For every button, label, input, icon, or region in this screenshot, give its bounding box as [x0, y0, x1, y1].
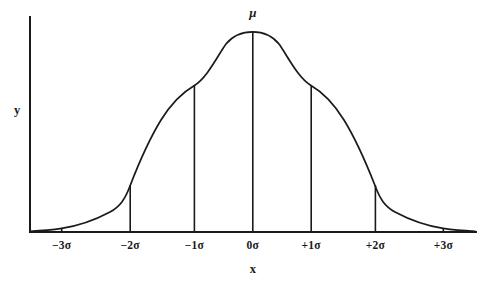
- bell-curve-figure: −3σ −2σ −1σ 0σ +1σ +2σ +3σ x y μ: [0, 0, 484, 295]
- x-tick-label-plus-1-sigma: +1σ: [302, 239, 322, 251]
- x-tick-label-plus-3-sigma: +3σ: [434, 239, 454, 251]
- x-axis-title: x: [250, 262, 257, 276]
- mu-peak-label: μ: [248, 5, 256, 20]
- x-tick-label-plus-2-sigma: +2σ: [366, 239, 386, 251]
- x-tick-label-minus-3-sigma: −3σ: [52, 239, 72, 251]
- normal-distribution-chart: −3σ −2σ −1σ 0σ +1σ +2σ +3σ x y μ: [0, 0, 484, 295]
- x-tick-label-minus-2-sigma: −2σ: [121, 239, 141, 251]
- y-axis-title: y: [14, 103, 21, 117]
- x-tick-label-zero-sigma: 0σ: [247, 239, 260, 251]
- x-tick-label-minus-1-sigma: −1σ: [185, 239, 205, 251]
